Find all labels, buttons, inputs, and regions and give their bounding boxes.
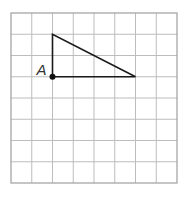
point-a [50, 74, 56, 80]
point-label: A [36, 61, 47, 78]
grid-diagram: A [0, 0, 190, 200]
grid-lines [11, 13, 177, 183]
